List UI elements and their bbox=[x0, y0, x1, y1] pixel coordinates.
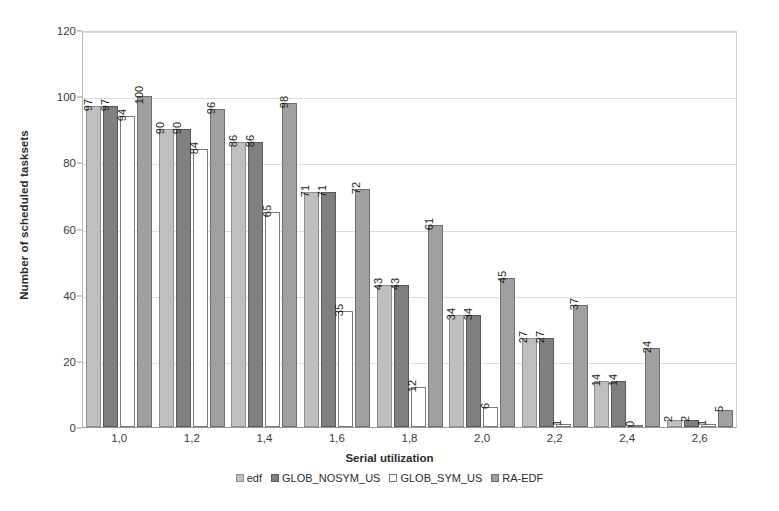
bar-slot: 86 bbox=[231, 32, 246, 427]
bar-slot: 27 bbox=[539, 32, 554, 427]
bar-value-label: 2 bbox=[663, 416, 674, 422]
bar-value-label: 43 bbox=[373, 278, 384, 290]
bar[interactable]: 65 bbox=[265, 212, 280, 427]
bar-value-label: 1 bbox=[552, 420, 563, 426]
bar-slot: 43 bbox=[394, 32, 409, 427]
bar[interactable]: 14 bbox=[611, 381, 626, 427]
bar-group: 1414024 bbox=[591, 32, 664, 427]
bar[interactable]: 61 bbox=[428, 225, 443, 427]
bar-slot: 34 bbox=[466, 32, 481, 427]
bar[interactable]: 24 bbox=[645, 348, 660, 427]
bar[interactable]: 97 bbox=[86, 106, 101, 427]
bar-slot: 34 bbox=[449, 32, 464, 427]
bar-group: 2727137 bbox=[518, 32, 591, 427]
bar-value-label: 71 bbox=[317, 185, 328, 197]
bar-slot: 86 bbox=[248, 32, 263, 427]
bar[interactable]: 27 bbox=[522, 338, 537, 427]
bar-slot: 14 bbox=[594, 32, 609, 427]
bar[interactable]: 27 bbox=[539, 338, 554, 427]
bar[interactable]: 34 bbox=[449, 315, 464, 427]
bar-value-label: 97 bbox=[83, 99, 94, 111]
legend-item[interactable]: edf bbox=[236, 472, 262, 484]
bar[interactable]: 86 bbox=[248, 142, 263, 427]
bar[interactable]: 0 bbox=[628, 425, 643, 427]
bar[interactable]: 100 bbox=[137, 96, 152, 427]
bar-value-label: 43 bbox=[390, 278, 401, 290]
bar-slot: 84 bbox=[193, 32, 208, 427]
bar[interactable]: 1 bbox=[556, 424, 571, 427]
bar[interactable]: 6 bbox=[483, 407, 498, 427]
legend-item[interactable]: GLOB_NOSYM_US bbox=[271, 472, 380, 484]
x-axis-title: Serial utilization bbox=[0, 452, 779, 464]
bar-value-label: 34 bbox=[463, 307, 474, 319]
legend-item[interactable]: RA-EDF bbox=[491, 472, 543, 484]
bar[interactable]: 71 bbox=[304, 192, 319, 427]
bar[interactable]: 90 bbox=[176, 129, 191, 427]
bar[interactable]: 43 bbox=[377, 285, 392, 427]
bar-slot: 2 bbox=[684, 32, 699, 427]
bar[interactable]: 1 bbox=[701, 424, 716, 427]
bar-slot: 0 bbox=[628, 32, 643, 427]
bar-value-label: 37 bbox=[569, 297, 580, 309]
y-axis-tick: 40 bbox=[40, 290, 82, 302]
bar[interactable]: 94 bbox=[120, 116, 135, 427]
bar-slot: 6 bbox=[483, 32, 498, 427]
bar[interactable]: 86 bbox=[231, 142, 246, 427]
bar-value-label: 35 bbox=[334, 304, 345, 316]
bar-slot: 90 bbox=[176, 32, 191, 427]
bar-slot: 5 bbox=[718, 32, 733, 427]
bar-slot: 43 bbox=[377, 32, 392, 427]
bar-value-label: 72 bbox=[351, 182, 362, 194]
x-axis-tick: 2,0 bbox=[446, 432, 519, 444]
bar[interactable]: 5 bbox=[718, 410, 733, 427]
legend-label: edf bbox=[247, 472, 262, 484]
bar-slot: 14 bbox=[611, 32, 626, 427]
bar[interactable]: 98 bbox=[282, 103, 297, 427]
bar-slot: 98 bbox=[282, 32, 297, 427]
bar[interactable]: 35 bbox=[338, 311, 353, 427]
x-axis-tick: 1,6 bbox=[301, 432, 374, 444]
bar-slot: 65 bbox=[265, 32, 280, 427]
bar[interactable]: 37 bbox=[573, 305, 588, 427]
bar-group: 3434645 bbox=[446, 32, 519, 427]
bar-group: 86866598 bbox=[228, 32, 301, 427]
bar-group: 2215 bbox=[664, 32, 737, 427]
bar[interactable]: 97 bbox=[103, 106, 118, 427]
bar-value-label: 45 bbox=[497, 271, 508, 283]
bar-value-label: 97 bbox=[100, 99, 111, 111]
bar-slot: 71 bbox=[304, 32, 319, 427]
bar[interactable]: 45 bbox=[500, 278, 515, 427]
bar-slot: 97 bbox=[86, 32, 101, 427]
bar-slot: 1 bbox=[701, 32, 716, 427]
y-axis-tick: 20 bbox=[40, 356, 82, 368]
bar-slot: 72 bbox=[355, 32, 370, 427]
bar-value-label: 27 bbox=[518, 331, 529, 343]
bar-group: 43431261 bbox=[373, 32, 446, 427]
bar-slot: 90 bbox=[159, 32, 174, 427]
bar[interactable]: 72 bbox=[355, 189, 370, 427]
bar-value-label: 6 bbox=[480, 403, 491, 409]
bar-value-label: 98 bbox=[279, 96, 290, 108]
bar[interactable]: 96 bbox=[210, 109, 225, 427]
bar-value-label: 71 bbox=[300, 185, 311, 197]
bar[interactable]: 14 bbox=[594, 381, 609, 427]
bar-slot: 35 bbox=[338, 32, 353, 427]
bar-value-label: 0 bbox=[625, 421, 636, 427]
bar-slot: 2 bbox=[667, 32, 682, 427]
bar-group: 979794100 bbox=[83, 32, 156, 427]
bar[interactable]: 90 bbox=[159, 129, 174, 427]
legend-item[interactable]: GLOB_SYM_US bbox=[389, 472, 482, 484]
bar[interactable]: 84 bbox=[193, 149, 208, 427]
bar-groups: 9797941009090849686866598717135724343126… bbox=[83, 32, 736, 427]
bar-value-label: 100 bbox=[134, 86, 145, 104]
bar-value-label: 34 bbox=[446, 307, 457, 319]
bar[interactable]: 34 bbox=[466, 315, 481, 427]
bar[interactable]: 12 bbox=[411, 387, 426, 427]
bar-value-label: 61 bbox=[424, 218, 435, 230]
x-axis-tick: 2,4 bbox=[591, 432, 664, 444]
bar-value-label: 1 bbox=[697, 420, 708, 426]
bar-value-label: 90 bbox=[155, 122, 166, 134]
legend-label: RA-EDF bbox=[502, 472, 543, 484]
bar[interactable]: 43 bbox=[394, 285, 409, 427]
x-axis-tick: 1,4 bbox=[228, 432, 301, 444]
